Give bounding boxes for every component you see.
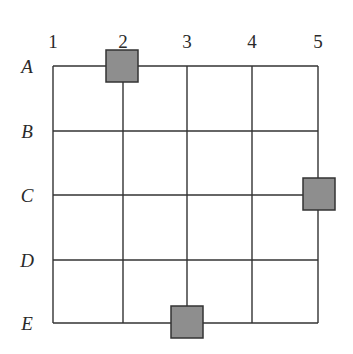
grid-diagram: 12345ABCDE	[0, 0, 353, 354]
column-label: 5	[313, 31, 323, 52]
marker-A2	[106, 50, 138, 82]
marker-C5	[303, 178, 335, 210]
row-label: A	[19, 56, 33, 77]
column-label: 3	[182, 31, 192, 52]
marker-E3	[171, 306, 203, 338]
row-label: B	[21, 121, 33, 142]
row-label: C	[21, 185, 34, 206]
column-label: 1	[48, 31, 58, 52]
row-label: D	[19, 250, 34, 271]
row-label: E	[20, 313, 33, 334]
column-label: 2	[118, 31, 128, 52]
column-label: 4	[247, 31, 257, 52]
